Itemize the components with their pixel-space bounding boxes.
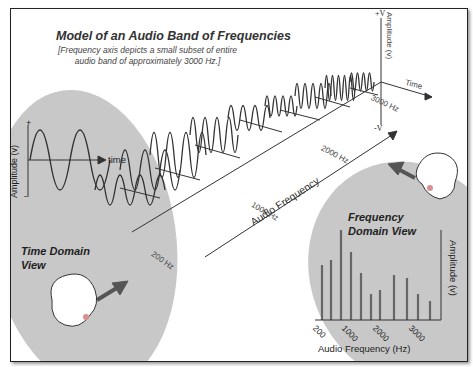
minus-v-label: -V xyxy=(374,124,382,133)
fd-amplitude-label: Amplitude (v) xyxy=(448,240,459,296)
frequency-bars xyxy=(322,230,430,320)
amplitude-3d-label: Amplitude (v) xyxy=(385,12,394,59)
viewer-faces xyxy=(51,153,457,326)
fd-x-axis-label: Audio Frequency (Hz) xyxy=(318,343,410,354)
plus-v-label: +V xyxy=(375,9,385,18)
waveform-illustration xyxy=(0,0,473,367)
td-plus-sign: + xyxy=(26,118,31,128)
td-time-label: time xyxy=(108,154,126,165)
time-domain-view-title: Time Domain View xyxy=(21,244,90,272)
frequency-domain-view-title: Frequency Domain View xyxy=(348,210,416,238)
td-amplitude-label: Amplitude (v) xyxy=(9,145,19,198)
td-minus-sign: - xyxy=(24,191,27,201)
